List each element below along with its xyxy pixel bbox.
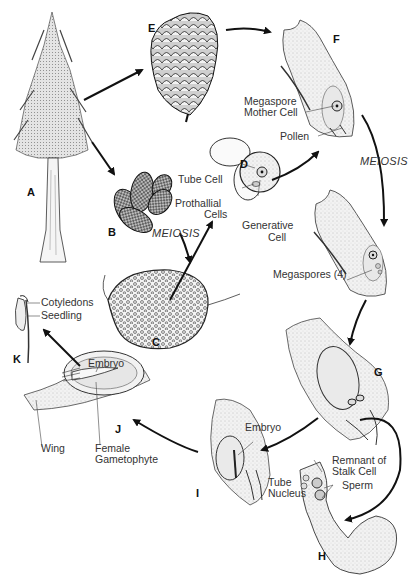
stage-letter-e: E bbox=[148, 22, 155, 34]
label-female-gametophyte-2: Gametophyte bbox=[95, 454, 158, 465]
stage-letter-c: C bbox=[152, 336, 160, 348]
label-generative-2: Cell bbox=[268, 232, 286, 243]
ovule-megaspores bbox=[314, 190, 386, 296]
label-seedling: Seedling bbox=[41, 310, 82, 321]
ovulate-cone-e bbox=[151, 13, 218, 122]
ovule-embryo-i bbox=[211, 399, 270, 505]
stage-letter-k: K bbox=[13, 353, 21, 365]
label-megaspore-mother-2: Mother Cell bbox=[244, 107, 298, 118]
label-megaspores: Megaspores (4) bbox=[273, 269, 347, 280]
seed-j bbox=[24, 351, 150, 410]
stage-letter-g: G bbox=[374, 366, 383, 378]
label-sperm: Sperm bbox=[342, 480, 373, 491]
label-embryo-j: Embryo bbox=[88, 358, 124, 369]
label-tube-nucleus-2: Nucleus bbox=[268, 488, 306, 499]
stage-letter-h: H bbox=[318, 550, 326, 562]
label-remnant-stalk-2: Stalk Cell bbox=[332, 466, 376, 477]
stage-letter-j: J bbox=[115, 423, 121, 435]
stage-letter-b: B bbox=[108, 226, 116, 238]
label-prothallial-2: Cells bbox=[204, 209, 227, 220]
label-pollen: Pollen bbox=[280, 131, 309, 142]
meiosis-label-male: MEIOSIS bbox=[152, 227, 200, 239]
microsporangium-c bbox=[103, 270, 240, 349]
ovule-f bbox=[281, 20, 354, 137]
pine-life-cycle-artwork bbox=[0, 0, 414, 581]
label-generative-1: Generative bbox=[242, 220, 293, 231]
label-embryo-i: Embryo bbox=[245, 422, 281, 433]
meiosis-label-female: MEIOSIS bbox=[360, 155, 408, 167]
stage-letter-d: D bbox=[240, 158, 248, 170]
female-gametophyte-g bbox=[286, 318, 389, 445]
stage-letter-i: I bbox=[196, 487, 199, 499]
tree-sporophyte-a bbox=[14, 12, 92, 262]
stage-letter-f: F bbox=[333, 33, 340, 45]
stage-letter-a: A bbox=[27, 186, 35, 198]
label-cotyledons: Cotyledons bbox=[41, 297, 94, 308]
label-wing: Wing bbox=[41, 443, 65, 454]
label-tube-cell: Tube Cell bbox=[178, 174, 223, 185]
